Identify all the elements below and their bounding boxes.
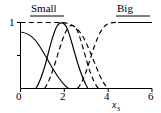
series-label-small: Small (31, 3, 57, 14)
plot-canvas (0, 0, 161, 113)
chart-figure: 1 0 2 4 6 Small Big x3 (0, 0, 161, 113)
series-small-curve (21, 23, 110, 89)
x-axis-title-subscript: 3 (116, 105, 120, 113)
x-axis-tick-label-0: 0 (16, 91, 22, 102)
x-axis-tick-label-2: 2 (60, 91, 66, 102)
x-axis-tick-label-6: 6 (148, 91, 154, 102)
series-decreasing-solid (21, 32, 69, 89)
x-axis-title: x3 (112, 100, 120, 113)
x-axis-tick-label-4: 4 (104, 91, 110, 102)
series-label-big: Big (117, 3, 133, 14)
y-axis-tick-label-1: 1 (9, 17, 15, 28)
